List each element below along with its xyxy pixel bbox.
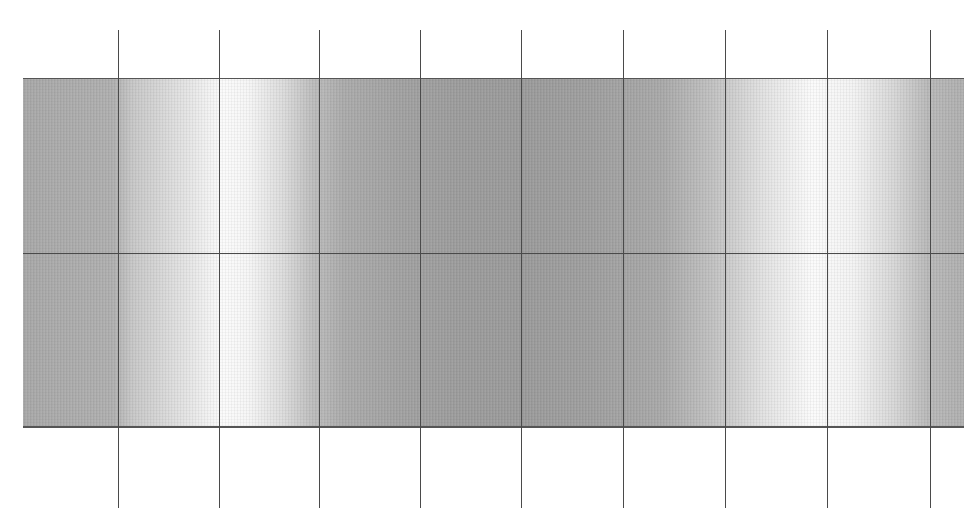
grid-vertical-line	[521, 30, 522, 508]
grid-vertical-line	[420, 30, 421, 508]
grid-vertical-line	[827, 30, 828, 508]
grid-vertical-line	[725, 30, 726, 508]
grid-vertical-line	[623, 30, 624, 508]
grid-vertical-line	[219, 30, 220, 508]
grid-vertical-line	[930, 30, 931, 508]
grid-vertical-line	[118, 30, 119, 508]
grid-horizontal-line	[23, 253, 964, 254]
grid-vertical-line	[319, 30, 320, 508]
